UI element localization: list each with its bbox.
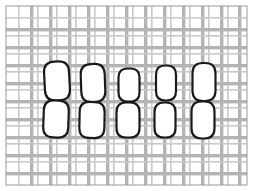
weave-band-horizontal <box>6 46 247 49</box>
capsule-shape-lower <box>43 100 69 138</box>
weave-band-vertical <box>30 6 33 185</box>
weave-band-vertical <box>37 6 39 185</box>
weave-band-vertical <box>106 6 109 185</box>
capsule-shape-lower <box>79 102 105 138</box>
capsule-shape-lower <box>192 102 215 139</box>
capsule-shape-lower <box>117 103 140 138</box>
figure-canvas <box>0 0 253 191</box>
weave-band-horizontal <box>6 154 247 157</box>
weave-band-vertical <box>18 6 20 185</box>
capsule-shape-upper <box>43 61 70 101</box>
weave-band-vertical <box>220 6 223 185</box>
weave-band-horizontal <box>6 172 247 175</box>
weave-band-vertical <box>151 6 153 185</box>
capsule-shape-upper <box>193 63 216 101</box>
weave-band-horizontal <box>6 17 247 19</box>
capsule-shape-upper <box>156 66 176 101</box>
weave-band-horizontal <box>6 161 247 163</box>
weave-band-vertical <box>113 6 115 185</box>
weave-band-vertical <box>75 6 77 185</box>
weave-band-vertical <box>238 6 241 185</box>
capsule-shape-lower <box>155 103 176 138</box>
weave-band-vertical <box>227 6 229 185</box>
weave-band-horizontal <box>6 53 247 55</box>
weave-band-horizontal <box>6 28 247 31</box>
weave-band-vertical <box>182 6 185 185</box>
capsule-shape-upper <box>80 64 105 103</box>
weave-band-horizontal <box>6 143 247 145</box>
capsule-pair <box>117 69 140 138</box>
weave-band-vertical <box>144 6 147 185</box>
weave-band-vertical <box>189 6 191 185</box>
weave-band-horizontal <box>6 35 247 37</box>
capsule-shape-upper <box>119 69 140 102</box>
weave-pattern-figure <box>0 0 253 191</box>
